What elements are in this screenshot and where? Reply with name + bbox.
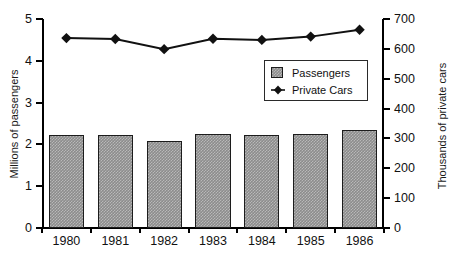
legend-square-icon bbox=[271, 67, 283, 78]
legend-label-passengers: Passengers bbox=[292, 67, 350, 79]
y-left-tick-label: 5 bbox=[10, 12, 32, 26]
legend-diamond-icon bbox=[271, 84, 285, 96]
y-right-tick bbox=[383, 137, 390, 139]
line-marker-diamond bbox=[354, 25, 364, 35]
y-left-tick-label: 3 bbox=[10, 96, 32, 110]
y-right-tick-label: 300 bbox=[394, 131, 426, 145]
line-marker-diamond bbox=[306, 31, 316, 41]
y-right-tick bbox=[383, 108, 390, 110]
line-marker-diamond bbox=[61, 33, 71, 43]
x-axis-label: 1980 bbox=[39, 234, 93, 248]
y-right-tick bbox=[383, 48, 390, 50]
line-series-private-cars bbox=[42, 19, 384, 228]
plot-area bbox=[42, 19, 384, 228]
x-axis-label: 1981 bbox=[88, 234, 142, 248]
y-left-tick-label: 0 bbox=[10, 221, 32, 235]
legend: Passengers Private Cars bbox=[264, 60, 368, 101]
y-right-tick-label: 100 bbox=[394, 191, 426, 205]
y-right-tick bbox=[383, 197, 390, 199]
y-left-tick-label: 1 bbox=[10, 179, 32, 193]
line-marker-diamond bbox=[208, 34, 218, 44]
y-left-tick-label: 4 bbox=[10, 54, 32, 68]
x-axis-label: 1982 bbox=[137, 234, 191, 248]
y-right-tick bbox=[383, 18, 390, 20]
legend-label-private-cars: Private Cars bbox=[292, 84, 353, 96]
y-left-tick-label: 2 bbox=[10, 137, 32, 151]
y-axis-left-title: Millions of passengers bbox=[8, 49, 20, 199]
line-marker-diamond bbox=[159, 44, 169, 54]
y-right-tick bbox=[383, 167, 390, 169]
y-right-tick-label: 0 bbox=[394, 221, 426, 235]
y-right-tick-label: 200 bbox=[394, 161, 426, 175]
y-right-tick-label: 500 bbox=[394, 72, 426, 86]
x-axis-label: 1986 bbox=[333, 234, 387, 248]
line-marker-diamond bbox=[257, 35, 267, 45]
y-right-tick-label: 600 bbox=[394, 42, 426, 56]
line-marker-diamond bbox=[110, 34, 120, 44]
chart-container: Millions of passengers Thousands of priv… bbox=[0, 0, 449, 261]
y-right-tick-label: 700 bbox=[394, 12, 426, 26]
y-right-tick-label: 400 bbox=[394, 102, 426, 116]
x-axis-label: 1983 bbox=[186, 234, 240, 248]
legend-item-passengers: Passengers bbox=[271, 64, 350, 81]
x-axis-label: 1985 bbox=[284, 234, 338, 248]
y-right-tick bbox=[383, 78, 390, 80]
y-axis-right-title: Thousands of private cars bbox=[436, 46, 448, 206]
x-axis-label: 1984 bbox=[235, 234, 289, 248]
legend-item-private-cars: Private Cars bbox=[271, 81, 353, 98]
